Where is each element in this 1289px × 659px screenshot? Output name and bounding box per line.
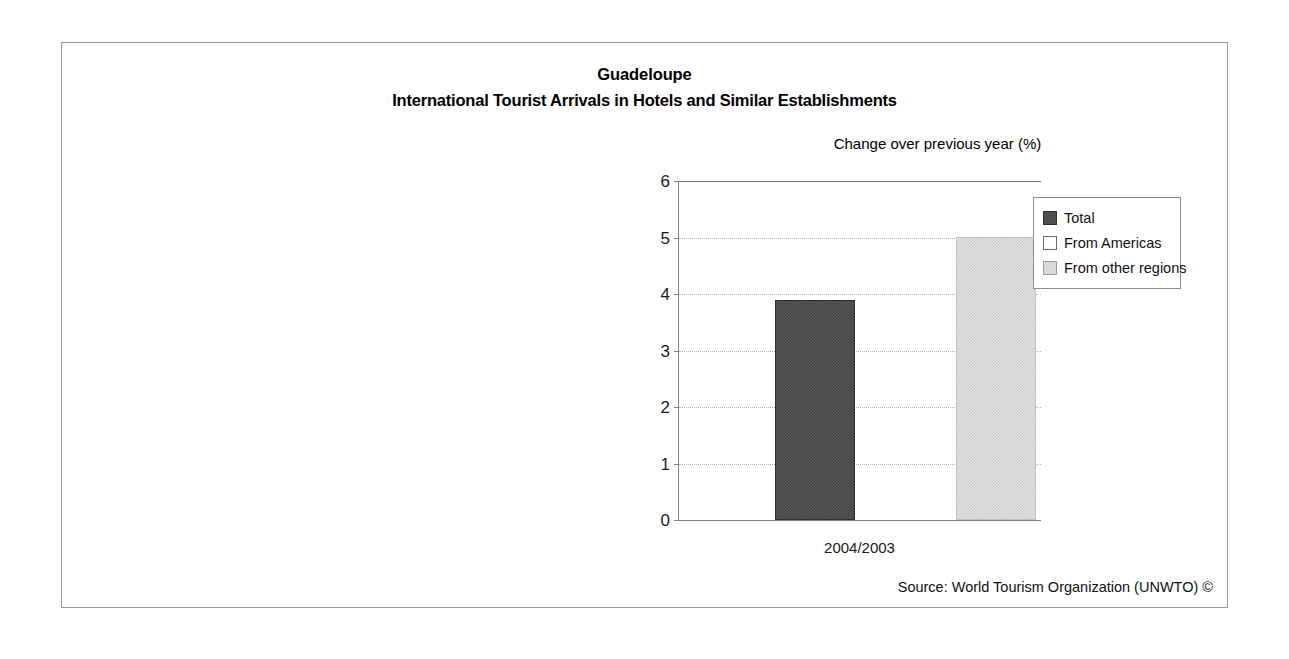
y-axis-tick-0	[674, 520, 679, 521]
chart-axis-caption-text: Change over previous year (%)	[834, 135, 1042, 152]
dark-checker-swatch-icon	[1043, 211, 1057, 225]
y-axis-label-2: 2	[661, 399, 670, 416]
bar-from-americas	[865, 518, 945, 520]
y-axis-tick-5	[674, 238, 679, 239]
legend-item-total[interactable]: Total	[1043, 205, 1171, 230]
y-axis-label-3: 3	[661, 342, 670, 359]
y-axis-tick-3	[674, 351, 679, 352]
gridline-0	[679, 520, 1041, 521]
y-axis-label-1: 1	[661, 455, 670, 472]
light-checker-swatch-icon	[1043, 261, 1057, 275]
plot-area: 0123456	[678, 181, 1041, 520]
white-swatch-icon	[1043, 236, 1057, 250]
y-axis-tick-6	[674, 181, 679, 182]
y-axis-tick-4	[674, 294, 679, 295]
chart-title-main: Guadeloupe	[62, 65, 1227, 84]
x-axis-category-label: 2004/2003	[678, 539, 1041, 556]
y-axis-label-0: 0	[661, 512, 670, 529]
legend-label-from-other-regions: From other regions	[1064, 260, 1187, 276]
bar-from-other-regions	[956, 237, 1036, 520]
chart-legend: Total From Americas From other regions	[1033, 197, 1181, 289]
figure-frame: Guadeloupe International Tourist Arrival…	[61, 42, 1228, 608]
legend-item-from-other-regions[interactable]: From other regions	[1043, 255, 1171, 280]
y-axis-label-6: 6	[661, 173, 670, 190]
figure-root: Guadeloupe International Tourist Arrival…	[0, 0, 1289, 659]
gridline-6	[679, 181, 1041, 182]
x-axis-tick-label: 2004/2003	[824, 539, 895, 556]
y-axis-tick-1	[674, 464, 679, 465]
chart-axis-caption: Change over previous year (%)	[62, 135, 1227, 152]
legend-label-total: Total	[1064, 210, 1095, 226]
bar-total	[775, 300, 855, 520]
y-axis-label-5: 5	[661, 229, 670, 246]
y-axis-tick-2	[674, 407, 679, 408]
legend-label-from-americas: From Americas	[1064, 235, 1162, 251]
chart-title-subtitle: International Tourist Arrivals in Hotels…	[62, 91, 1227, 110]
legend-item-from-americas[interactable]: From Americas	[1043, 230, 1171, 255]
source-note: Source: World Tourism Organization (UNWT…	[898, 579, 1213, 595]
y-axis-label-4: 4	[661, 286, 670, 303]
